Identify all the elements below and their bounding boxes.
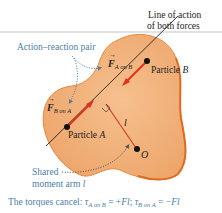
eq-1: = + — [106, 197, 121, 207]
label-action-reaction-pair: Action–reaction pair — [17, 43, 95, 53]
particle-b-text: Particle — [151, 65, 182, 75]
label-shared-1: Shared — [32, 168, 58, 178]
tau-2-sub: B on A — [138, 201, 156, 208]
label-origin: O — [141, 150, 148, 160]
shared-text: moment arm — [32, 179, 83, 189]
eq-1-val: Fl — [121, 197, 129, 207]
label-line-of-action-1: Line of action — [148, 11, 201, 21]
label-particle-b: Particle B — [151, 66, 188, 76]
eq-2-val: Fl — [171, 197, 179, 207]
particle-a-letter: A — [99, 130, 105, 140]
caption-prefix: The torques cancel: — [8, 197, 85, 207]
label-line-of-action-2: of both forces — [147, 22, 200, 32]
label-shared-2: moment arm l — [32, 180, 85, 190]
subscript: B on A — [54, 107, 72, 114]
particle-b-letter: B — [182, 65, 188, 75]
label-particle-a: Particle A — [68, 131, 105, 141]
vector-symbol: F — [47, 102, 54, 113]
torque-diagram: Line of action of both forces Action–rea… — [0, 0, 222, 213]
caption: The torques cancel: τA on B = +Fl; τB on… — [8, 198, 180, 209]
action-reaction-connector-top — [72, 56, 100, 69]
subscript: A on B — [115, 63, 133, 70]
particle-a-text: Particle — [68, 130, 99, 140]
tau-1-sub: A on B — [88, 201, 106, 208]
label-force-a-on-b: FA on B — [108, 59, 132, 71]
eq-2: = − — [156, 197, 171, 207]
shared-symbol: l — [83, 179, 86, 189]
label-moment-arm: l — [124, 118, 127, 128]
particle-b-dot — [144, 58, 150, 64]
label-force-b-on-a: FB on A — [47, 103, 71, 115]
origin-dot — [134, 146, 140, 152]
vector-symbol: F — [108, 58, 115, 69]
